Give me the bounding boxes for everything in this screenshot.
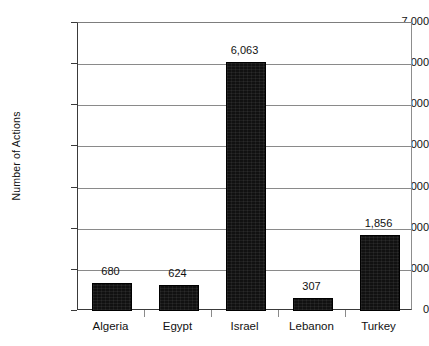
x-tick-mark: [278, 310, 279, 317]
bar: [226, 62, 266, 311]
bar-value-label: 624: [138, 268, 218, 279]
bar: [360, 235, 400, 311]
bar: [293, 298, 333, 311]
bar: [159, 285, 199, 311]
x-tick-mark: [345, 310, 346, 317]
bar: [92, 283, 132, 311]
x-tick-mark: [211, 310, 212, 317]
y-axis-title: Number of Actions: [10, 96, 22, 216]
bar-value-label: 6,063: [205, 45, 285, 56]
x-tick-mark: [144, 310, 145, 317]
bar-chart: Number of Actions 01,0002,0003,0004,0005…: [0, 0, 429, 346]
x-category-label: Turkey: [334, 320, 424, 333]
y-tick-mark: [71, 310, 77, 311]
bar-value-label: 307: [272, 281, 352, 292]
bar-value-label: 1,856: [339, 218, 419, 229]
